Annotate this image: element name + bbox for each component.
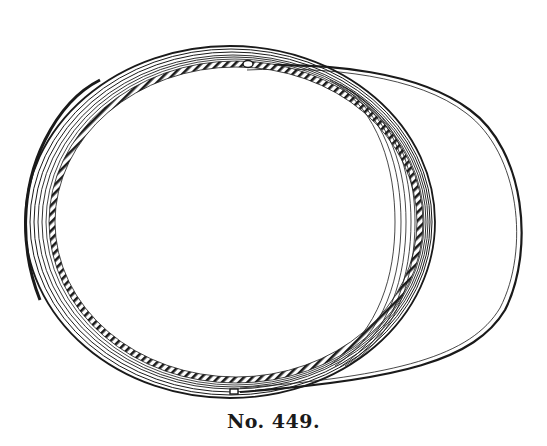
brim-outline [240, 65, 522, 392]
figure-caption: No. 449. [0, 410, 547, 432]
outer-band [25, 46, 435, 398]
button-knobs [230, 61, 253, 395]
cap-illustration [0, 0, 547, 410]
